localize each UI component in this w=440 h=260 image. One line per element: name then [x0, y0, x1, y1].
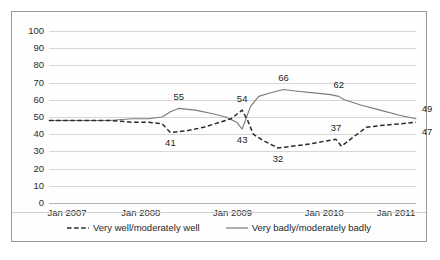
legend-label-very-badly: Very badly/moderately badly: [252, 222, 371, 233]
data-label-55: 55: [173, 93, 184, 103]
y-tick-90: 90: [33, 43, 44, 53]
legend-label-very-well: Very well/moderately well: [93, 222, 200, 233]
line-very-well: [49, 110, 416, 148]
y-tick-0: 0: [39, 198, 44, 208]
series-lines: [49, 31, 416, 203]
data-label-66: 66: [278, 74, 289, 84]
dashed-line-key: [67, 223, 89, 231]
data-label-41: 41: [165, 139, 176, 149]
data-label-32: 32: [273, 154, 284, 164]
y-tick-40: 40: [33, 129, 44, 139]
plot-area: 1009080706050403020100 Jan 2007Jan 2008J…: [49, 31, 416, 203]
legend-divider: [12, 212, 426, 213]
data-label-49: 49: [422, 104, 433, 114]
y-tick-10: 10: [33, 181, 44, 191]
y-tick-60: 60: [33, 95, 44, 105]
gridline-0: [49, 203, 416, 204]
y-tick-50: 50: [33, 112, 44, 122]
chart-legend: Very well/moderately well Very badly/mod…: [12, 215, 426, 239]
legend-item-very-badly[interactable]: Very badly/moderately badly: [226, 222, 371, 233]
y-tick-80: 80: [33, 61, 44, 71]
y-tick-70: 70: [33, 78, 44, 88]
data-label-37: 37: [331, 124, 342, 134]
data-label-43: 43: [237, 135, 248, 145]
line-very-badly: [49, 89, 416, 129]
data-label-54: 54: [237, 94, 248, 104]
data-label-47: 47: [422, 127, 433, 137]
legend-item-very-well[interactable]: Very well/moderately well: [67, 222, 200, 233]
data-label-62: 62: [333, 81, 344, 91]
y-tick-100: 100: [28, 26, 44, 36]
y-tick-30: 30: [33, 147, 44, 157]
chart-figure: 1009080706050403020100 Jan 2007Jan 2008J…: [11, 11, 427, 242]
y-tick-20: 20: [33, 164, 44, 174]
solid-line-key: [226, 223, 248, 231]
